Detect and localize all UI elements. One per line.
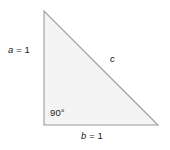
right-angle-label: 90° [50,108,65,118]
side-b-value: = 1 [86,130,103,141]
side-b-label: b = 1 [81,131,103,141]
triangle-shape [0,0,170,150]
side-c-label: c [110,54,115,64]
right-triangle-figure: a = 1 b = 1 c 90° [0,0,170,150]
side-a-label: a = 1 [8,45,30,55]
side-a-value: = 1 [13,44,30,55]
side-c-variable: c [110,53,115,64]
